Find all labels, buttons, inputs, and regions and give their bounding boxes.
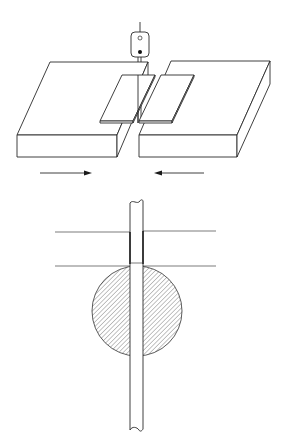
- top-panel: [17, 22, 270, 176]
- bottom-panel: [55, 200, 216, 431]
- probe-dot-icon: [138, 50, 142, 54]
- probe-hole-icon: [138, 36, 142, 40]
- left-plate-edge: [100, 121, 133, 123]
- right-plate-edge: [139, 121, 172, 123]
- left-block-front: [17, 135, 117, 157]
- diagram-canvas: [0, 0, 283, 446]
- arrow-left-head-icon: [154, 171, 162, 176]
- right-block-front: [139, 135, 237, 157]
- shaft: [130, 200, 143, 431]
- arrow-left: [154, 171, 204, 176]
- arrow-right-head-icon: [84, 171, 92, 176]
- arrow-right: [40, 171, 92, 176]
